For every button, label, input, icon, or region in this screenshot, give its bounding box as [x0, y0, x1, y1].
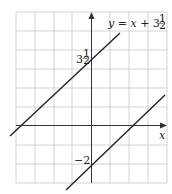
graph: y = x + 3 1 2 3 1 2 −2 x: [0, 0, 172, 194]
x-axis-arrow-icon: [160, 123, 167, 129]
line-upper: [10, 33, 120, 136]
equation-frac-den: 2: [159, 19, 166, 32]
equation-label: y = x + 3: [107, 17, 160, 30]
intercept-upper-label: 3: [76, 53, 83, 66]
intercept-upper-frac-den: 2: [83, 54, 90, 67]
intercept-lower-label: −2: [74, 154, 90, 167]
y-axis-arrow-icon: [89, 12, 95, 19]
x-axis-label: x: [159, 129, 166, 142]
line-lower: [66, 95, 165, 190]
